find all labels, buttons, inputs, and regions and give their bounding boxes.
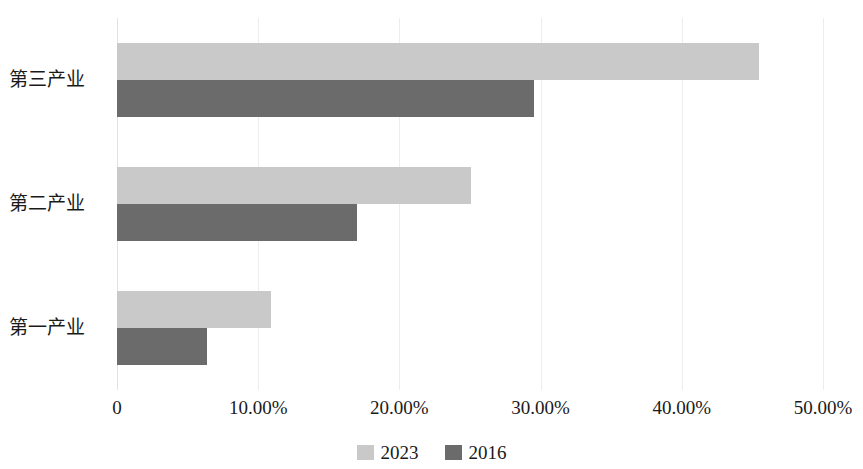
legend-label-2016: 2016 <box>469 443 507 462</box>
bar-row <box>117 43 823 80</box>
legend-item-2023[interactable]: 2023 <box>357 443 419 462</box>
bar-2023-第一产业[interactable] <box>117 291 271 328</box>
x-tick-label-30.00%: 30.00% <box>511 398 570 417</box>
bar-group <box>117 167 823 241</box>
legend-label-2023: 2023 <box>381 443 419 462</box>
x-tick-label-10.00%: 10.00% <box>229 398 288 417</box>
bar-row <box>117 80 823 117</box>
bar-row <box>117 167 823 204</box>
bar-row <box>117 328 823 365</box>
x-tick-label-20.00%: 20.00% <box>370 398 429 417</box>
legend-item-2016[interactable]: 2016 <box>445 443 507 462</box>
category-label-第二产业: 第二产业 <box>5 194 117 213</box>
chart-legend: 20232016 <box>0 443 863 462</box>
legend-swatch-icon-2016 <box>445 445 462 460</box>
bar-2016-第一产业[interactable] <box>117 328 207 365</box>
bar-chart: 第三产业第二产业第一产业 010.00%20.00%30.00%40.00%50… <box>0 0 863 469</box>
category-axis: 第三产业第二产业第一产业 <box>0 18 117 390</box>
category-label-第三产业: 第三产业 <box>5 70 117 89</box>
bar-2023-第二产业[interactable] <box>117 167 471 204</box>
gridline-50.00% <box>823 18 824 390</box>
x-tick-label-40.00%: 40.00% <box>653 398 712 417</box>
bar-group <box>117 291 823 365</box>
bar-2016-第二产业[interactable] <box>117 204 357 241</box>
plot-area <box>117 18 823 390</box>
bar-row <box>117 204 823 241</box>
bar-2016-第三产业[interactable] <box>117 80 534 117</box>
category-label-第一产业: 第一产业 <box>5 318 117 337</box>
x-tick-label-0: 0 <box>112 398 122 417</box>
bar-2023-第三产业[interactable] <box>117 43 759 80</box>
legend-swatch-icon-2023 <box>357 445 374 460</box>
bar-row <box>117 291 823 328</box>
x-axis-ticks: 010.00%20.00%30.00%40.00%50.00% <box>0 398 863 428</box>
x-tick-label-50.00%: 50.00% <box>794 398 853 417</box>
bar-group <box>117 43 823 117</box>
